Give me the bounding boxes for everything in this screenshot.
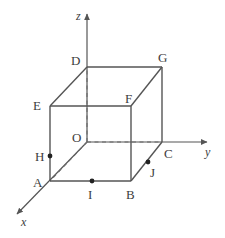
edge-F-G (131, 67, 162, 106)
vertex-label-I: I (88, 188, 92, 201)
vertex-label-J: J (150, 166, 155, 179)
point-dot-I (90, 179, 95, 184)
marked-points-group (48, 154, 151, 184)
visible-edges-group (50, 67, 162, 181)
geometry-figure: zyxOABCDEFGHIJ (0, 0, 225, 238)
vertex-label-E: E (33, 99, 41, 112)
edge-E-D (50, 67, 87, 106)
vertex-label-D: D (71, 54, 80, 67)
vertex-label-C: C (164, 147, 173, 160)
vertex-label-G: G (158, 51, 167, 64)
axis-label-z: z (76, 10, 81, 22)
point-dot-J (146, 160, 151, 165)
axes-group (17, 14, 207, 214)
vertex-label-B: B (126, 188, 135, 201)
point-dot-H (48, 154, 53, 159)
axis-label-x: x (21, 216, 26, 228)
vertex-label-F: F (125, 92, 132, 105)
axis-label-y: y (205, 146, 210, 158)
cube-diagram-canvas (0, 0, 225, 238)
vertex-label-H: H (35, 150, 44, 163)
vertex-label-A: A (33, 176, 42, 189)
vertex-label-O: O (72, 131, 81, 144)
